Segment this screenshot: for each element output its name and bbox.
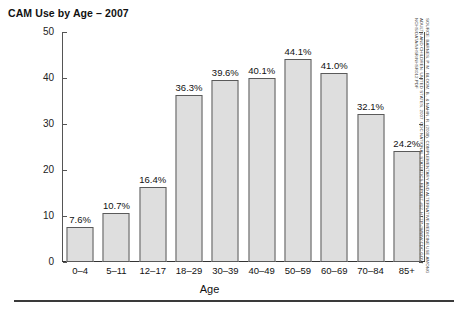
x-axis-title-text: Age xyxy=(200,283,220,295)
bar-slot: 40.1% xyxy=(244,32,280,262)
source-line-1: SOURCE: BARNES, P. M., BLOOM, B., & NAHI… xyxy=(425,18,430,273)
x-tick-label: 0–4 xyxy=(72,265,88,276)
y-tick-label-40: 40 xyxy=(0,72,54,83)
bar-slot: 7.6% xyxy=(62,32,98,262)
bar[interactable] xyxy=(321,73,348,262)
x-axis-title: Age xyxy=(0,283,467,295)
bar[interactable] xyxy=(67,227,94,262)
bar-value-label: 32.1% xyxy=(357,101,384,112)
chart-figure: CAM Use by Age – 2007 7.6%10.7%16.4%36.3… xyxy=(0,0,467,314)
bar-value-label: 41.0% xyxy=(321,60,348,71)
bar[interactable] xyxy=(212,80,239,262)
x-tick-label: 30–39 xyxy=(212,265,238,276)
bar-value-label: 16.4% xyxy=(139,174,166,185)
bar-value-label: 10.7% xyxy=(103,200,130,211)
x-tick-label: 12–17 xyxy=(140,265,166,276)
x-tick-label: 50–59 xyxy=(285,265,311,276)
bar-value-label: 7.6% xyxy=(69,214,91,225)
bar[interactable] xyxy=(103,213,130,262)
bottom-rule xyxy=(14,300,454,302)
bar-value-label: 39.6% xyxy=(212,67,239,78)
y-tick-label-10: 10 xyxy=(0,210,54,221)
x-tick-label: 60–69 xyxy=(321,265,347,276)
bar-slot: 32.1% xyxy=(352,32,388,262)
x-axis-tick-labels: 0–45–1112–1718–2930–3940–4950–5960–6970–… xyxy=(62,265,425,281)
source-line-2: ADULTS AND CHILDREN: UNITED STATES, 2007… xyxy=(419,18,425,306)
source-line-3: NCHS/DATA/NHSR/NHSR012.PDF xyxy=(413,18,419,306)
bar-slot: 36.3% xyxy=(171,32,207,262)
source-citation: SOURCE: BARNES, P. M., BLOOM, B., & NAHI… xyxy=(418,18,430,306)
x-tick-label: 40–49 xyxy=(248,265,274,276)
x-tick-label: 18–29 xyxy=(176,265,202,276)
y-tick-label-0: 0 xyxy=(0,256,54,267)
bar[interactable] xyxy=(139,187,166,262)
bar-slot: 41.0% xyxy=(316,32,352,262)
bar[interactable] xyxy=(357,114,384,262)
bar-value-label: 36.3% xyxy=(176,82,203,93)
bar-slot: 16.4% xyxy=(135,32,171,262)
bar[interactable] xyxy=(284,59,311,262)
bar-slot: 44.1% xyxy=(280,32,316,262)
bar-slot: 10.7% xyxy=(98,32,134,262)
bar-value-label: 44.1% xyxy=(284,46,311,57)
chart-title: CAM Use by Age – 2007 xyxy=(8,7,129,19)
bar-series: 7.6%10.7%16.4%36.3%39.6%40.1%44.1%41.0%3… xyxy=(62,32,425,262)
x-tick-label: 5–11 xyxy=(106,265,126,276)
bar-slot: 39.6% xyxy=(207,32,243,262)
x-tick-label: 70–84 xyxy=(357,265,383,276)
bar[interactable] xyxy=(248,78,275,262)
y-tick-label-50: 50 xyxy=(0,26,54,37)
bar-value-label: 40.1% xyxy=(248,65,275,76)
plot-area: 7.6%10.7%16.4%36.3%39.6%40.1%44.1%41.0%3… xyxy=(62,32,425,262)
y-tick-label-20: 20 xyxy=(0,164,54,175)
bar[interactable] xyxy=(176,95,203,262)
y-tick-label-30: 30 xyxy=(0,118,54,129)
